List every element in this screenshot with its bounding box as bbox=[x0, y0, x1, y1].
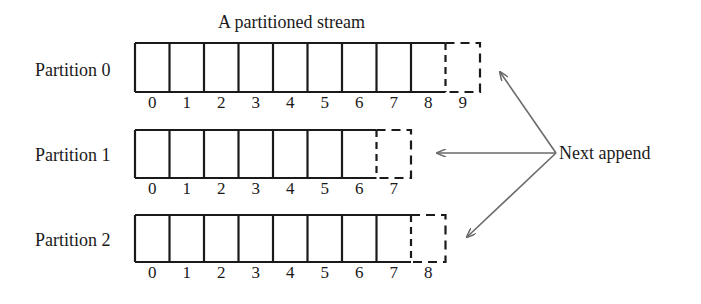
offset-label: 4 bbox=[280, 180, 300, 198]
next-append-slot bbox=[377, 130, 412, 178]
arrow-to-partition-0 bbox=[500, 72, 556, 153]
offset-label: 5 bbox=[315, 94, 335, 112]
offset-label: 4 bbox=[280, 264, 300, 282]
offset-label: 8 bbox=[418, 264, 438, 282]
diagram-title: A partitioned stream bbox=[218, 12, 365, 32]
next-append-slot bbox=[411, 215, 446, 262]
offset-label: 0 bbox=[142, 94, 162, 112]
offset-label: 7 bbox=[384, 264, 404, 282]
offset-label: 4 bbox=[280, 94, 300, 112]
arrow-to-partition-2 bbox=[467, 153, 556, 237]
offset-label: 2 bbox=[211, 264, 231, 282]
partition-2-label: Partition 2 bbox=[35, 230, 111, 250]
offset-label: 7 bbox=[384, 94, 404, 112]
offset-label: 1 bbox=[177, 180, 197, 198]
offset-label: 8 bbox=[418, 94, 438, 112]
offset-label: 7 bbox=[384, 180, 404, 198]
partition-0-label: Partition 0 bbox=[35, 60, 111, 80]
partitioned-stream-diagram: A partitioned stream Partition 0 Partiti… bbox=[0, 0, 701, 304]
next-append-label: Next append bbox=[559, 143, 650, 163]
partition-1-label: Partition 1 bbox=[35, 145, 111, 165]
offset-label: 2 bbox=[211, 180, 231, 198]
offset-label: 6 bbox=[349, 180, 369, 198]
offset-label: 3 bbox=[246, 180, 266, 198]
offset-label: 6 bbox=[349, 94, 369, 112]
offset-label: 1 bbox=[177, 94, 197, 112]
offset-label: 5 bbox=[315, 264, 335, 282]
offset-label: 0 bbox=[142, 180, 162, 198]
next-append-slot bbox=[446, 43, 481, 92]
offset-label: 6 bbox=[349, 264, 369, 282]
offset-label: 9 bbox=[453, 94, 473, 112]
offset-label: 0 bbox=[142, 264, 162, 282]
offset-label: 2 bbox=[211, 94, 231, 112]
offset-label: 3 bbox=[246, 264, 266, 282]
offset-label: 3 bbox=[246, 94, 266, 112]
offset-label: 1 bbox=[177, 264, 197, 282]
offset-label: 5 bbox=[315, 180, 335, 198]
